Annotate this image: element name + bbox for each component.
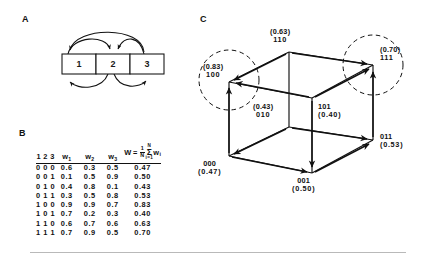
figure-canvas: A B C — [0, 0, 438, 259]
vertex-label-110: (0.63) 110 — [270, 28, 290, 45]
cell-w3: 0.3 — [101, 210, 124, 219]
cell-w2: 0.9 — [78, 229, 101, 238]
cell-W: 0.40 — [124, 210, 161, 219]
goodness-table: 1 2 3 w1 w2 w3 W=1NNΣi=1wi 0 0 00.60.30.… — [36, 144, 161, 238]
table-row: 1 0 10.70.20.30.40 — [36, 210, 161, 219]
table-body: 0 0 00.60.30.50.470 0 10.10.50.90.500 1 … — [36, 163, 161, 238]
panel-c-state-cube: (0.63) 110 (0.70) 111 (0.83) 100 101 (0.… — [196, 10, 438, 235]
col-header-w1: w1 — [55, 144, 78, 163]
footer-divider — [30, 252, 406, 253]
col-header-goodness: W=1NNΣi=1wi — [124, 144, 161, 163]
cell-w3: 0.9 — [101, 173, 124, 182]
cell-W: 0.70 — [124, 229, 161, 238]
col-header-w2: w2 — [78, 144, 101, 163]
vertex-label-100: (0.83) 100 — [203, 63, 223, 80]
table-header-row: 1 2 3 w1 w2 w3 W=1NNΣi=1wi — [36, 144, 161, 163]
vertex-label-111: (0.70) 111 — [380, 46, 400, 63]
vertex-label-101: 101 (0.40) — [318, 103, 341, 120]
panel-letter-b: B — [19, 128, 26, 138]
vertex-label-000: 000 (0.47) — [198, 160, 221, 177]
col-header-w3: w3 — [101, 144, 124, 163]
table-row: 1 1 10.70.90.50.70 — [36, 229, 161, 238]
col-header-state: 1 2 3 — [36, 144, 55, 163]
cell-w1: 0.1 — [55, 173, 78, 182]
cell-state: 0 0 1 — [36, 173, 55, 182]
table-row: 0 0 10.10.50.90.50 — [36, 173, 161, 182]
cell-w2: 0.2 — [78, 210, 101, 219]
cell-W: 0.50 — [124, 173, 161, 182]
cell-w1: 0.7 — [55, 210, 78, 219]
cell-w1: 0.7 — [55, 229, 78, 238]
cell-state: 1 1 1 — [36, 229, 55, 238]
vertex-label-011: 011 (0.53) — [380, 133, 403, 150]
cell-w2: 0.5 — [78, 173, 101, 182]
goodness-formula: W=1NNΣi=1wi — [124, 144, 161, 161]
vertex-label-010: (0.43) 010 — [253, 103, 273, 120]
cell-w3: 0.5 — [101, 229, 124, 238]
unit-box-2: 2 — [96, 54, 130, 74]
cell-state: 1 0 1 — [36, 210, 55, 219]
unit-box-1: 1 — [62, 54, 96, 74]
unit-box-3: 3 — [130, 54, 164, 74]
vertex-label-001: 001 (0.50) — [292, 177, 315, 194]
panel-b-table: 1 2 3 w1 w2 w3 W=1NNΣi=1wi 0 0 00.60.30.… — [36, 144, 161, 238]
formula-fraction: 1N — [140, 146, 145, 158]
cube-edges — [229, 52, 373, 173]
formula-sigma: NΣi=1 — [146, 144, 154, 161]
panel-a-network: 1 2 3 — [18, 12, 198, 112]
